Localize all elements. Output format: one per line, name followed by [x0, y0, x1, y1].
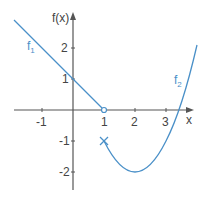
y-tick-label: -1 [59, 134, 70, 148]
f2-cross-endpoint-icon [100, 137, 108, 145]
x-tick-label: -1 [36, 115, 47, 129]
function-graph: -1 1 2 3 2 1 -1 -2 f(x) x f1 f2 [0, 0, 207, 202]
y-axis-label: f(x) [52, 11, 69, 25]
f2-curve [104, 45, 197, 172]
y-axis-arrow-icon [70, 12, 76, 20]
f1-open-endpoint [102, 108, 107, 113]
f2-label: f2 [174, 73, 182, 89]
f1-curve [14, 20, 102, 108]
x-tick-label: 1 [101, 115, 108, 129]
y-tick-label: -2 [59, 165, 70, 179]
f1-label: f1 [27, 39, 35, 55]
y-tick-label: 2 [61, 41, 68, 55]
x-axis-label: x [186, 113, 192, 127]
x-tick-label: 2 [131, 115, 138, 129]
x-tick-label: 3 [162, 115, 169, 129]
